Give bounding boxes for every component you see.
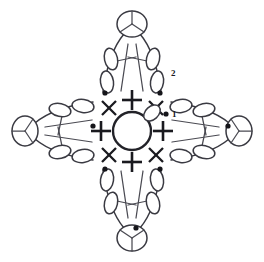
slip-stitch-dot [163, 111, 168, 116]
slip-stitch-dot [133, 225, 138, 230]
slip-stitch-dot [90, 123, 95, 128]
center-cluster [91, 90, 173, 172]
round-label-two: 2 [171, 68, 176, 78]
slip-stitch-dot [102, 90, 107, 95]
slip-stitch-dot [157, 166, 162, 171]
chart-canvas: 2 1 [0, 0, 264, 262]
slip-stitch-dot [102, 166, 107, 171]
slip-stitch-dot [225, 123, 230, 128]
slip-stitch-dot [157, 90, 162, 95]
round-label-one: 1 [172, 109, 177, 119]
crochet-chart-figure: 2 1 [0, 0, 264, 262]
